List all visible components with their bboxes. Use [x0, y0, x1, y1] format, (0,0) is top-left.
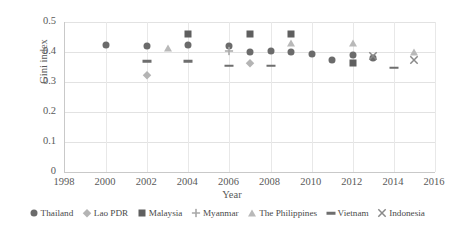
- legend-label: The Philippines: [259, 208, 317, 218]
- point-the-philippines-2009: [287, 40, 295, 47]
- point-thailand-2009: [288, 49, 295, 56]
- legend-label: Myanmar: [203, 208, 239, 218]
- gridline-vertical: [435, 22, 436, 172]
- gridline-vertical: [394, 22, 395, 172]
- gridline-horizontal: [65, 142, 435, 143]
- legend-marker-plus: [191, 209, 200, 218]
- x-axis-title: Year: [202, 189, 262, 200]
- legend-item-myanmar[interactable]: Myanmar: [191, 208, 238, 218]
- square-marker: [138, 210, 145, 217]
- legend-label: Vietnam: [338, 208, 369, 218]
- legend-marker-triangle: [248, 209, 257, 218]
- point-thailand-2007: [247, 49, 254, 56]
- x-tick-label: 2016: [411, 176, 454, 187]
- point-vietnam-2004: [184, 60, 193, 63]
- plus-marker: [191, 209, 200, 218]
- gridline-horizontal: [65, 112, 435, 113]
- gridline-horizontal: [65, 82, 435, 83]
- point-vietnam-2002: [143, 60, 152, 63]
- legend-marker-diamond: [82, 209, 91, 218]
- point-thailand-2004: [185, 41, 192, 48]
- triangle-marker: [248, 210, 256, 217]
- gridline-horizontal: [65, 22, 435, 23]
- point-vietnam-2008: [266, 64, 275, 67]
- y-tick-label: 0.1: [10, 136, 56, 146]
- point-the-philippines-2012: [349, 40, 357, 47]
- legend-label: Malaysia: [149, 208, 183, 218]
- legend-marker-dash: [326, 209, 335, 218]
- gridline-vertical: [271, 22, 272, 172]
- point-malaysia-2012: [349, 59, 356, 66]
- y-tick-label: 0.3: [10, 76, 56, 86]
- x-tick-label: 2014: [370, 176, 416, 187]
- legend-item-vietnam[interactable]: Vietnam: [326, 208, 369, 218]
- x-tick-label: 2004: [164, 176, 210, 187]
- x-tick-label: 2012: [329, 176, 375, 187]
- point-thailand-2008: [267, 47, 274, 54]
- legend-label: Thailand: [41, 208, 74, 218]
- legend-item-lao-pdr[interactable]: Lao PDR: [82, 208, 128, 218]
- point-lao-pdr-2007: [246, 59, 254, 67]
- legend-marker-circle: [29, 209, 38, 218]
- legend-marker-cross: [378, 209, 387, 218]
- plot-area: [64, 22, 435, 173]
- chart-legend: ThailandLao PDRMalaysiaMyanmarThe Philip…: [0, 208, 454, 218]
- circle-marker: [30, 210, 37, 217]
- point-malaysia-2009: [288, 31, 295, 38]
- x-tick-label: 2000: [82, 176, 128, 187]
- y-tick-label: 0.5: [10, 16, 56, 26]
- point-thailand-2012: [349, 52, 356, 59]
- legend-item-indonesia[interactable]: Indonesia: [378, 208, 425, 218]
- x-tick-label: 2006: [205, 176, 251, 187]
- point-malaysia-2007: [247, 31, 254, 38]
- point-lao-pdr-2002: [143, 71, 151, 79]
- point-thailand-2002: [144, 43, 151, 50]
- x-tick-label: 2002: [123, 176, 169, 187]
- legend-label: Indonesia: [389, 208, 425, 218]
- point-the-philippines-2003: [164, 44, 172, 51]
- legend-item-thailand[interactable]: Thailand: [29, 208, 73, 218]
- point-myanmar-2006: [225, 42, 234, 51]
- y-tick-label: 0.2: [10, 106, 56, 116]
- gridline-vertical: [312, 22, 313, 172]
- point-thailand-2010: [308, 50, 315, 57]
- x-tick-label: 1998: [41, 176, 87, 187]
- legend-item-the-philippines[interactable]: The Philippines: [248, 208, 317, 218]
- x-tick-label: 2010: [288, 176, 334, 187]
- point-vietnam-2006: [225, 64, 234, 67]
- x-tick-label: 2008: [247, 176, 293, 187]
- point-vietnam-2014: [389, 66, 398, 69]
- point-thailand-2000: [103, 41, 110, 48]
- legend-marker-square: [137, 209, 146, 218]
- point-indonesia-2015: [410, 51, 419, 60]
- legend-item-malaysia[interactable]: Malaysia: [137, 208, 182, 218]
- cross-marker: [378, 209, 387, 218]
- point-thailand-2011: [329, 56, 336, 63]
- y-tick-label: 0: [10, 166, 56, 176]
- y-axis-title: Gini index: [38, 17, 49, 107]
- y-tick-label: 0.4: [10, 46, 56, 56]
- point-indonesia-2013: [369, 46, 378, 55]
- gini-index-scatter-chart: 00.10.20.30.40.5 Gini index 199820002002…: [0, 0, 454, 232]
- dash-marker: [326, 212, 335, 215]
- legend-label: Lao PDR: [94, 208, 128, 218]
- y-axis-tick-labels: 00.10.20.30.40.5: [0, 0, 62, 180]
- diamond-marker: [83, 209, 91, 217]
- point-malaysia-2004: [185, 31, 192, 38]
